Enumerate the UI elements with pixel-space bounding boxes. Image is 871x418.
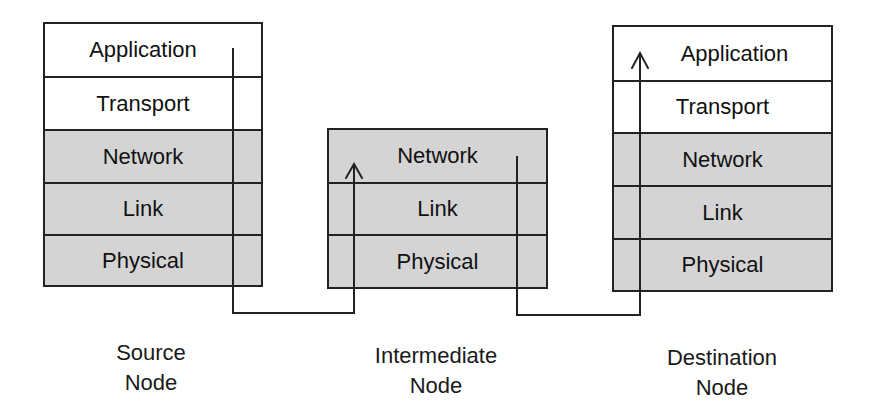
intermediate-node-caption: Intermediate Node (356, 341, 516, 401)
source-node-caption: Source Node (91, 338, 211, 398)
source-network-layer: Network (45, 129, 261, 182)
destination-network-layer: Network (614, 132, 831, 185)
intermediate-node-stack: Network Link Physical (327, 128, 548, 289)
destination-transport-layer: Transport (614, 80, 831, 132)
source-caption-line2: Node (91, 368, 211, 398)
source-node-stack: Application Transport Network Link Physi… (43, 22, 263, 287)
intermediate-physical-layer: Physical (329, 234, 546, 287)
source-link-layer: Link (45, 182, 261, 234)
destination-application-layer: Application (614, 27, 831, 80)
intermediate-caption-line1: Intermediate (356, 341, 516, 371)
intermediate-network-layer: Network (329, 130, 546, 182)
destination-physical-layer: Physical (614, 238, 831, 290)
source-application-layer: Application (45, 24, 261, 76)
destination-link-layer: Link (614, 185, 831, 238)
source-physical-layer: Physical (45, 234, 261, 285)
destination-node-caption: Destination Node (642, 343, 802, 403)
source-transport-layer: Transport (45, 76, 261, 129)
intermediate-caption-line2: Node (356, 371, 516, 401)
intermediate-link-layer: Link (329, 182, 546, 234)
source-caption-line1: Source (91, 338, 211, 368)
destination-node-stack: Application Transport Network Link Physi… (612, 25, 833, 292)
destination-caption-line2: Node (642, 373, 802, 403)
destination-caption-line1: Destination (642, 343, 802, 373)
